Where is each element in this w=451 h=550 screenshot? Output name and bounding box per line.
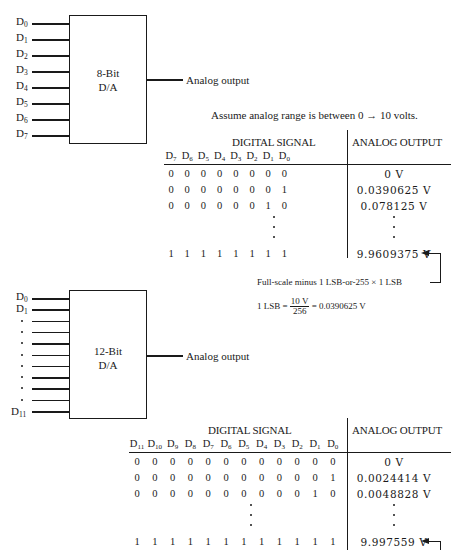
bit-cell: 0 <box>272 456 286 468</box>
bit-cell: 0 <box>219 456 233 468</box>
bit-column-header: D4 <box>253 438 271 450</box>
dac8-output-line <box>147 79 183 81</box>
bit-column-header: D7 <box>199 438 217 450</box>
bit-cell: 1 <box>183 536 197 548</box>
bit-column-header: D8 <box>181 438 199 450</box>
ellipsis-dot <box>393 236 395 238</box>
bit-cell: 1 <box>277 248 291 260</box>
bit-cell: 0 <box>237 472 251 484</box>
dac8-input-label: D3 <box>16 64 28 75</box>
dac12-input-line <box>32 388 69 390</box>
bit-cell: 1 <box>245 248 259 260</box>
bit-cell: 1 <box>308 536 322 548</box>
table8-header-rule <box>164 164 451 165</box>
dac8-input-line <box>32 135 69 137</box>
bit-cell: 1 <box>237 536 251 548</box>
bit-column-header: D10 <box>146 438 164 450</box>
lsb-fraction: 10 V256 <box>290 297 310 316</box>
ellipsis-dot <box>393 504 395 506</box>
lsb-formula: 1 LSB = 10 V256 = 0.0390625 V <box>257 297 366 316</box>
table12-digital-header: DIGITAL SIGNAL <box>208 424 292 436</box>
bit-cell: 0 <box>245 184 259 196</box>
bit-cell: 0 <box>229 184 243 196</box>
dac12-input-label: D0 <box>16 291 28 302</box>
bit-cell: 0 <box>201 456 215 468</box>
bit-cell: 0 <box>245 200 259 212</box>
dac8-input-label: D7 <box>16 128 28 139</box>
bit-column-header: D6 <box>217 438 235 450</box>
bit-cell: 0 <box>290 472 304 484</box>
bit-cell: 0 <box>255 456 269 468</box>
arrow-head-icon <box>421 250 429 256</box>
bit-cell: 0 <box>180 200 194 212</box>
bit-column-header: D5 <box>195 150 211 162</box>
dac12-input-label: D1 <box>16 303 28 314</box>
bit-cell: 0 <box>164 184 178 196</box>
ellipsis-dot <box>21 399 23 401</box>
bit-cell: 0 <box>272 472 286 484</box>
bit-cell: 0 <box>245 168 259 180</box>
bit-cell: 0 <box>196 184 210 196</box>
dac12-input-line <box>32 400 69 402</box>
dac8-input-label: D5 <box>16 96 28 107</box>
bit-cell: 0 <box>237 456 251 468</box>
dac8-input-line <box>32 87 69 89</box>
bit-cell: 0 <box>326 488 340 500</box>
dac12-input-line <box>32 332 69 334</box>
ellipsis-dot <box>273 216 275 218</box>
dac12-input-line <box>32 355 69 357</box>
bit-cell: 0 <box>229 168 243 180</box>
bit-cell: 1 <box>180 248 194 260</box>
dac8-input-label: D1 <box>16 32 28 43</box>
bit-cell: 1 <box>255 536 269 548</box>
ellipsis-dot <box>250 524 252 526</box>
bit-cell: 0 <box>219 472 233 484</box>
dac12-chip-label: 12-Bit D/A <box>69 344 147 372</box>
bit-cell: 0 <box>183 488 197 500</box>
ellipsis-dot <box>393 524 395 526</box>
dac8-output-label: Analog output <box>186 74 249 86</box>
bit-cell: 0 <box>196 200 210 212</box>
dac12-input-line <box>32 377 69 379</box>
bit-cell: 0 <box>290 456 304 468</box>
arrow-shaft-horizontal <box>427 253 441 254</box>
ellipsis-dot <box>21 342 23 344</box>
bit-cell: 0 <box>201 472 215 484</box>
table12-vertical-divider <box>347 418 348 550</box>
bit-cell: 0 <box>166 456 180 468</box>
bit-column-header: D2 <box>244 150 260 162</box>
bit-cell: 1 <box>219 536 233 548</box>
bit-cell: 1 <box>308 488 322 500</box>
dac8-input-line <box>32 119 69 121</box>
bit-column-header: D1 <box>306 438 324 450</box>
dac12-input-line <box>32 343 69 345</box>
bit-cell: 0 <box>148 488 162 500</box>
bit-cell: 0 <box>326 456 340 468</box>
ellipsis-dot <box>250 514 252 516</box>
table8-digital-header: DIGITAL SIGNAL <box>232 136 316 148</box>
analog-value: 0 V <box>348 456 440 468</box>
arrow-head-icon <box>421 538 429 544</box>
bit-column-header: D5 <box>235 438 253 450</box>
dac12-input-line <box>32 309 69 311</box>
bit-column-header: D1 <box>260 150 276 162</box>
bit-cell: 0 <box>180 184 194 196</box>
ellipsis-dot <box>393 226 395 228</box>
dac12-input-line <box>32 366 69 368</box>
bit-cell: 0 <box>277 168 291 180</box>
ellipsis-dot <box>21 376 23 378</box>
bit-cell: 0 <box>277 200 291 212</box>
bit-column-header: D0 <box>276 150 292 162</box>
bit-cell: 1 <box>196 248 210 260</box>
dac8-input-line <box>32 23 69 25</box>
bit-cell: 0 <box>164 168 178 180</box>
bit-cell: 0 <box>148 456 162 468</box>
bit-cell: 0 <box>130 472 144 484</box>
bit-cell: 0 <box>290 488 304 500</box>
range-assumption: Assume analog range is between 0 → 10 vo… <box>211 109 418 121</box>
table12-header-rule <box>129 452 451 453</box>
dac8-input-label: D6 <box>16 112 28 123</box>
bit-column-header: D4 <box>212 150 228 162</box>
dac12-output-line <box>147 355 183 357</box>
bit-column-header: D2 <box>288 438 306 450</box>
